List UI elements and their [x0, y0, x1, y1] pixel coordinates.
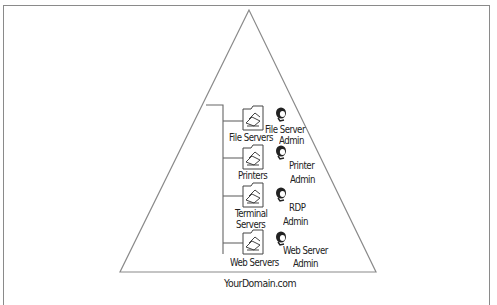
admin-label-web-server-line1: Web Server — [283, 245, 328, 256]
admin-user-icon-printer — [276, 146, 286, 160]
ou-folder-icon-terminal-servers — [243, 183, 263, 207]
ou-folder-icon-file-servers — [243, 106, 263, 130]
admin-user-icon-web-server — [276, 232, 286, 246]
ou-folder-icon-web-servers — [243, 230, 263, 254]
admin-user-icon-rdp — [276, 188, 286, 202]
admin-label-rdp-line1: RDP — [289, 202, 305, 213]
admin-label-file-server-line2: Admin — [279, 135, 304, 146]
admin-label-printer-line1: Printer — [289, 160, 314, 171]
ou-label-terminal-line2: Servers — [236, 219, 265, 230]
domain-label: YourDomain.com — [224, 277, 296, 290]
admin-label-printer-line2: Admin — [290, 174, 315, 185]
admin-user-icon-file-server — [276, 108, 286, 122]
ou-label-web-servers: Web Servers — [230, 257, 279, 268]
admin-label-web-server-line2: Admin — [293, 258, 318, 269]
ou-label-printers: Printers — [238, 170, 267, 181]
admin-label-rdp-line2: Admin — [283, 216, 308, 227]
ou-folder-icon-printers — [243, 145, 263, 169]
